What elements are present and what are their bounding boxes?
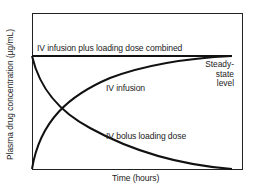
x-axis-label: Time (hours)	[112, 174, 159, 183]
bolus-curve	[32, 56, 232, 169]
y-axis-label: Plasma drug concentration (µg/mL)	[5, 29, 15, 160]
bolus-label: IV bolus loading dose	[106, 132, 186, 141]
steady-state-line-3: level	[205, 79, 234, 89]
infusion-curve	[32, 56, 232, 169]
infusion-label: IV infusion	[106, 84, 145, 93]
chart-canvas	[0, 0, 253, 194]
combined-label: IV infusion plus loading dose combined	[37, 44, 182, 53]
steady-state-label: Steady- state level	[205, 60, 234, 89]
